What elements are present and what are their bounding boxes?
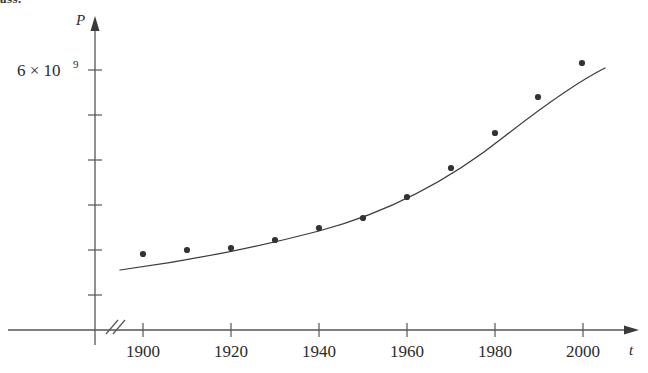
- data-point: [579, 60, 585, 66]
- exponential-fit-curve: [120, 68, 605, 270]
- x-axis-arrowhead: [624, 326, 639, 335]
- data-point: [316, 225, 322, 231]
- y-axis-tick-label-6e9: 6 × 10 9: [17, 58, 79, 80]
- data-point-series: [140, 60, 585, 257]
- x-tick-label-1980: 1980: [478, 342, 512, 361]
- x-tick-label-2000: 2000: [566, 342, 600, 361]
- data-point: [360, 215, 366, 221]
- fitted-curve-group: [120, 68, 605, 270]
- y-tick-label-exponent: 9: [73, 58, 79, 70]
- x-axis-name-label: t: [629, 342, 634, 358]
- x-axis-group: 1900 1920 1940 1960 1980 2000 t: [8, 320, 639, 361]
- y-axis-group: 6 × 10 9 P: [17, 12, 102, 345]
- data-point: [228, 245, 234, 251]
- data-point: [492, 130, 498, 136]
- cropped-header-text: ass.: [0, 0, 22, 3]
- y-tick-label-mantissa: 6 × 10: [17, 61, 61, 80]
- x-tick-label-1900: 1900: [126, 342, 160, 361]
- data-point: [184, 247, 190, 253]
- data-point: [272, 237, 278, 243]
- chart-canvas: 6 × 10 9 P 1900 1920 1940: [0, 0, 648, 373]
- x-axis-break-symbol: [106, 320, 125, 334]
- y-axis-name-label: P: [75, 12, 85, 28]
- data-point: [535, 94, 541, 100]
- population-growth-figure: ass. 6 × 10 9 P: [0, 0, 648, 373]
- y-axis-arrowhead: [91, 16, 100, 31]
- x-tick-label-1940: 1940: [302, 342, 336, 361]
- data-point: [404, 194, 410, 200]
- x-tick-label-1920: 1920: [214, 342, 248, 361]
- x-tick-label-1960: 1960: [390, 342, 424, 361]
- data-point: [448, 165, 454, 171]
- data-point: [140, 251, 146, 257]
